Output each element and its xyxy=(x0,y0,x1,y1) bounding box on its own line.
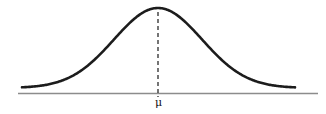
bell-curve-plot: μ xyxy=(0,0,326,114)
mean-label: μ xyxy=(155,96,162,109)
normal-distribution-figure: μ xyxy=(0,0,326,114)
